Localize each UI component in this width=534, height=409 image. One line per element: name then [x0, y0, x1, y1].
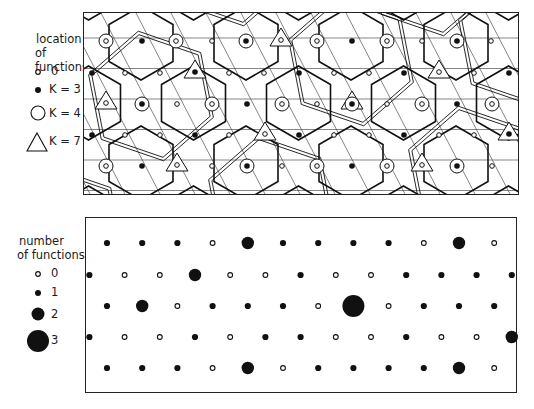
- small-open-circle-icon: [210, 39, 215, 44]
- top-legend: location of functions 0 K = 3 K = 4 K = …: [0, 30, 86, 210]
- function-dot: [342, 295, 364, 317]
- filled-dot-icon: [139, 163, 145, 169]
- small-open-circle-icon: [123, 71, 128, 76]
- small-open-circle-icon: [227, 71, 232, 76]
- legend-label-k3: K = 3: [49, 82, 81, 96]
- open-circle-icon: [281, 366, 286, 371]
- function-count-dots: [86, 218, 518, 394]
- function-dot: [104, 240, 110, 246]
- open-circle-icon: [421, 241, 426, 246]
- function-dot: [421, 365, 427, 371]
- function-dot: [104, 303, 110, 309]
- filled-dot-icon: [506, 70, 512, 76]
- small-open-circle-icon: [227, 133, 232, 138]
- small-open-circle-icon: [472, 133, 477, 138]
- small-open-circle-icon: [472, 71, 477, 76]
- open-circle-icon: [210, 366, 215, 371]
- dot-medium-icon: [30, 306, 46, 322]
- small-open-circle-icon: [490, 164, 495, 169]
- function-dot: [315, 240, 321, 246]
- legend-count-0: 0: [51, 266, 58, 280]
- function-dot: [453, 362, 465, 374]
- function-dot: [242, 362, 254, 374]
- filled-dot-icon: [192, 132, 198, 138]
- function-dot: [280, 303, 286, 309]
- dot-small-icon: [33, 288, 43, 298]
- small-open-circle-icon: [332, 71, 337, 76]
- function-count-map: [85, 217, 517, 393]
- open-circle-icon: [333, 335, 338, 340]
- triangle-icon: [25, 131, 49, 153]
- filled-dot-icon: [401, 70, 407, 76]
- open-circle-icon: [316, 304, 321, 309]
- function-dot: [491, 303, 497, 309]
- filled-dot-icon: [454, 101, 460, 107]
- function-dot: [139, 240, 145, 246]
- open-circle-icon: [228, 273, 233, 278]
- open-circle-icon: [492, 241, 497, 246]
- filled-dot-icon: [244, 101, 250, 107]
- triangle-icon: [95, 91, 117, 109]
- function-dot: [189, 269, 201, 281]
- function-dot: [350, 365, 356, 371]
- small-open-circle-icon: [33, 67, 43, 77]
- function-dot: [86, 272, 92, 278]
- function-dot: [403, 334, 409, 340]
- legend-label-k4: K = 4: [49, 106, 81, 120]
- bottom-legend-title-line2: of functions: [17, 248, 85, 262]
- open-circle-icon: [474, 335, 479, 340]
- legend-count-3: 3: [51, 333, 58, 347]
- legend-label-k7: K = 7: [49, 134, 81, 148]
- open-circle-icon: [157, 273, 162, 278]
- open-circle-icon: [210, 241, 215, 246]
- small-open-circle-icon: [158, 71, 163, 76]
- filled-dot-icon: [33, 85, 43, 95]
- function-dot: [421, 303, 427, 309]
- small-open-circle-icon: [123, 133, 128, 138]
- function-dot: [298, 272, 304, 278]
- function-dot: [509, 272, 515, 278]
- open-circle-icon: [369, 273, 374, 278]
- filled-dot-icon: [139, 38, 145, 44]
- open-circle-icon: [386, 304, 391, 309]
- small-open-circle-icon: [158, 133, 163, 138]
- small-open-circle-icon: [315, 102, 320, 107]
- small-open-circle-icon: [385, 102, 390, 107]
- open-circle-icon: [263, 273, 268, 278]
- function-dot: [453, 237, 465, 249]
- small-open-circle-icon: [175, 102, 180, 107]
- small-open-circle-icon: [420, 39, 425, 44]
- triangle-icon: [428, 60, 450, 78]
- bottom-legend: number of functions 0 1 2 3: [0, 232, 86, 372]
- function-dot: [242, 237, 254, 249]
- function-dot: [174, 365, 180, 371]
- legend-label-0: 0: [51, 64, 58, 78]
- dot-large-icon: [26, 329, 50, 353]
- function-dot: [315, 365, 321, 371]
- triangle-icon: [498, 122, 519, 140]
- open-circle-icon: [492, 366, 497, 371]
- hexagonal-lattice-map: [83, 12, 519, 195]
- function-dot: [136, 300, 148, 312]
- function-dot: [298, 334, 304, 340]
- filled-dot-icon: [89, 132, 95, 138]
- filled-dot-icon: [296, 132, 302, 138]
- small-open-circle-icon: [437, 133, 442, 138]
- small-open-circle-icon: [367, 133, 372, 138]
- function-dot: [456, 303, 462, 309]
- function-dot: [438, 272, 444, 278]
- legend-count-2: 2: [51, 307, 58, 321]
- function-dot: [86, 334, 92, 340]
- filled-dot-icon: [349, 38, 355, 44]
- open-circle-icon: [122, 273, 127, 278]
- function-dot: [280, 240, 286, 246]
- lattice-drawing: [84, 13, 519, 195]
- open-circle-icon: [439, 335, 444, 340]
- function-dot: [386, 240, 392, 246]
- top-legend-title-line1: location: [18, 32, 82, 46]
- small-open-circle-icon: [489, 39, 494, 44]
- small-open-circle-icon: [332, 133, 337, 138]
- small-open-circle-icon: [210, 164, 215, 169]
- function-dot: [104, 365, 110, 371]
- open-circle-icon: [33, 269, 43, 279]
